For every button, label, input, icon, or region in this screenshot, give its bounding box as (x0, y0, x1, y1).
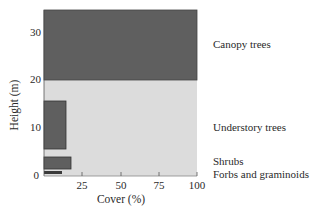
y-tick-label-10: 10 (30, 121, 42, 133)
y-tick-label-30: 30 (30, 26, 42, 38)
bar-understory-trees (44, 101, 66, 149)
bar-forbs-graminoids (44, 171, 62, 174)
x-tick-label-50: 50 (116, 179, 128, 191)
y-tick-label-20: 20 (30, 73, 42, 85)
y-tick-label-0: 0 (34, 169, 40, 181)
x-tick-label-100: 100 (189, 179, 206, 191)
vegetation-layer-chart: 25 50 75 100 0 10 20 30 Cover (%) Height… (0, 0, 321, 213)
plot-area (44, 10, 197, 176)
bar-shrubs (44, 157, 71, 169)
label-forbs-graminoids: Forbs and graminoids (213, 168, 309, 180)
x-tick-label-75: 75 (154, 179, 166, 191)
y-axis-title: Height (m) (8, 79, 21, 130)
bar-canopy-trees (44, 10, 197, 80)
x-axis-title: Cover (%) (97, 193, 145, 206)
label-canopy-trees: Canopy trees (213, 38, 271, 50)
x-tick-label-25: 25 (77, 179, 89, 191)
label-understory-trees: Understory trees (213, 121, 286, 133)
label-shrubs: Shrubs (213, 155, 244, 167)
